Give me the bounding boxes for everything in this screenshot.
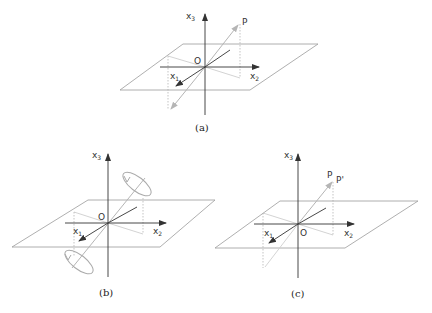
origin-label: O [194, 56, 201, 66]
figure: x3 P O x1 x2 (a) x3 O x1 x2 (b) [0, 0, 432, 313]
x3-label: x3 [186, 11, 195, 22]
panel-c: x3 P P' O x1 x2 (c) [215, 150, 418, 299]
point-p-label: P [242, 17, 248, 27]
plane [215, 201, 418, 248]
panel-a: x3 P O x1 x2 (a) [120, 11, 318, 133]
caption-c: (c) [291, 288, 305, 299]
rotation-circle-lower-icon [61, 246, 96, 278]
x1-axis [79, 223, 108, 241]
x1-label: x1 [73, 226, 82, 237]
x1-axis-back [298, 208, 326, 224]
x2-label: x2 [344, 228, 353, 239]
x1-axis-back [108, 207, 137, 223]
x2-label: x2 [153, 226, 162, 237]
panel-b: x3 O x1 x2 (b) [12, 150, 215, 298]
rotation-circle-upper-icon [119, 168, 154, 200]
origin-label: O [98, 212, 105, 222]
caption-b: (b) [99, 287, 113, 298]
origin-label: O [300, 228, 307, 238]
x3-label: x3 [92, 150, 101, 161]
x2-label: x2 [250, 71, 259, 82]
x1-axis [176, 67, 205, 86]
point-p-prime-label: P' [336, 175, 344, 185]
x1-label: x1 [264, 228, 273, 239]
x1-axis [269, 224, 298, 243]
vector-lower [265, 224, 298, 267]
caption-a: (a) [195, 122, 209, 133]
x3-label: x3 [284, 150, 293, 161]
x1-axis-back [205, 50, 230, 67]
point-p-label: P [327, 170, 333, 180]
plane [12, 200, 215, 247]
x1-label: x1 [170, 71, 179, 82]
vector-op-inverse [171, 67, 205, 109]
vector-op [205, 25, 238, 67]
vector-op [298, 182, 332, 224]
